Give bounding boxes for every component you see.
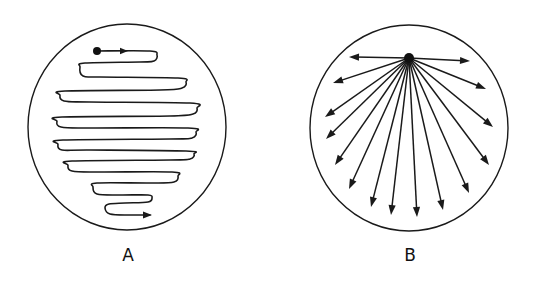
arrowhead-icon <box>437 199 444 210</box>
panel-a-serpentine-scan <box>28 24 226 230</box>
panel-b-radial-scan <box>310 25 508 231</box>
arrowhead-icon <box>480 155 489 165</box>
start-dot-icon <box>93 47 101 55</box>
arrowhead-icon <box>475 82 486 89</box>
arrowhead-icon <box>389 205 396 215</box>
radial-arrow-line <box>330 58 409 135</box>
figure-canvas <box>0 0 534 285</box>
radial-arrow-line <box>409 58 464 61</box>
panel-label-a: A <box>113 245 143 265</box>
arrowhead-icon <box>462 182 469 193</box>
panel-a-field-circle <box>28 24 226 230</box>
arrowhead-icon <box>333 76 344 83</box>
arrowhead-icon <box>460 57 470 64</box>
panel-label-b: B <box>395 245 425 265</box>
arrowhead-icon <box>349 178 356 189</box>
arrowhead-icon <box>370 196 377 207</box>
arrowhead-icon <box>325 108 335 117</box>
radial-arrows <box>325 54 493 217</box>
serpentine-path <box>52 51 200 215</box>
radial-arrow-line <box>392 58 409 209</box>
arrowhead-icon <box>349 54 359 61</box>
radial-arrow-line <box>409 58 417 211</box>
radial-arrow-line <box>351 58 409 184</box>
radial-arrow-line <box>339 58 409 81</box>
arrowhead-icon <box>335 155 344 165</box>
hub-dot-icon <box>404 53 414 63</box>
arrowhead-icon <box>413 207 420 217</box>
radial-arrow-line <box>355 57 409 58</box>
start-arrow-icon <box>120 48 128 54</box>
end-arrow-icon <box>143 212 152 219</box>
